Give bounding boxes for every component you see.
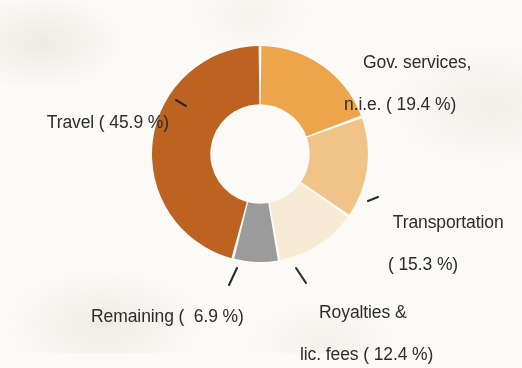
slice-label-transportation-line1: Transportation [393,212,504,232]
slice-label-royalties-line2: lic. fees ( 12.4 %) [300,344,433,365]
slice-label-royalties: Royalties & lic. fees ( 12.4 %) [300,281,433,368]
slice-label-royalties-line1: Royalties & [319,302,406,322]
leader-line-remaining [229,268,237,285]
donut-slice-group [152,46,368,262]
slice-label-travel-line1: Travel ( 45.9 %) [47,112,169,132]
slice-label-gov-services: Gov. services, n.i.e. ( 19.4 %) [344,31,471,157]
slice-label-transportation-line2: ( 15.3 %) [374,254,504,275]
slice-label-remaining: Remaining ( 6.9 %) [72,285,244,348]
slice-label-travel: Travel ( 45.9 %) [28,91,169,154]
slice-label-gov-services-line2: n.i.e. ( 19.4 %) [344,94,471,115]
slice-label-remaining-line1: Remaining ( 6.9 %) [91,306,244,326]
slice-label-gov-services-line1: Gov. services, [363,52,471,72]
